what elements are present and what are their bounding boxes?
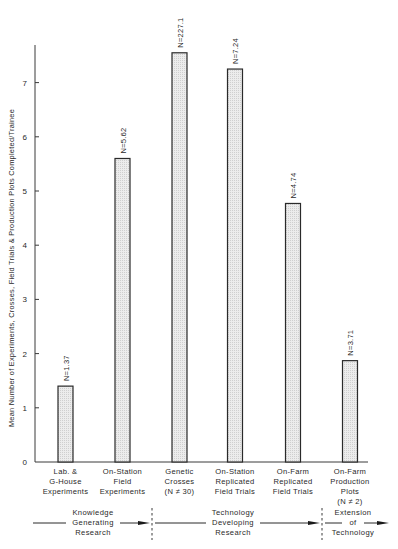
- x-tick-label: Field Trials: [215, 487, 255, 496]
- y-tick-label: 4: [23, 241, 28, 250]
- x-tick-label: Experiments: [100, 487, 146, 496]
- y-tick-label: 6: [23, 133, 28, 142]
- phase-label: of: [349, 518, 357, 527]
- phase-label: Research: [75, 528, 111, 537]
- bar: [286, 203, 301, 462]
- arrowhead-icon: [138, 521, 150, 525]
- x-tick-label: Plots: [341, 487, 359, 496]
- bar-data-label: N=227.1: [176, 17, 185, 47]
- bar-data-label: N=7.24: [231, 38, 240, 64]
- x-tick-label: On-Station: [103, 467, 142, 476]
- y-tick-label: 7: [23, 79, 28, 88]
- arrowhead-icon: [377, 521, 389, 525]
- bar-data-label: N=4.74: [289, 173, 298, 199]
- y-axis-label: Mean Number of Experiments, Crosses, Fie…: [7, 109, 16, 427]
- bar-labels: N=1.37N=5.62N=227.1N=7.24N=4.74N=3.71: [62, 17, 356, 381]
- y-tick-label: 3: [23, 295, 28, 304]
- y-tick-label: 2: [23, 350, 28, 359]
- phase-label: Technology: [212, 508, 254, 517]
- phase-label: Knowledge: [72, 508, 113, 517]
- phase-label: Generating: [72, 518, 114, 527]
- y-tick-label: 0: [23, 458, 28, 467]
- category-labels: Lab. &G-HouseExperimentsOn-StationFieldE…: [43, 467, 370, 506]
- x-tick-label: Replicated: [274, 477, 313, 486]
- x-tick-label: Production: [330, 477, 369, 486]
- y-tick-label: 5: [23, 187, 28, 196]
- x-tick-label: (N ≠ 2): [337, 497, 362, 506]
- x-tick-label: On-Station: [215, 467, 254, 476]
- x-tick-label: Field: [114, 477, 132, 486]
- bar: [343, 361, 358, 462]
- x-tick-label: Genetic: [165, 467, 193, 476]
- x-tick-label: On-Farm: [277, 467, 309, 476]
- bar: [228, 69, 243, 462]
- bar-data-label: N=3.71: [346, 330, 355, 356]
- x-tick-label: Field Trials: [273, 487, 313, 496]
- phase-label: Extension: [335, 508, 372, 517]
- bar-data-label: N=1.37: [62, 355, 71, 381]
- bar: [172, 53, 187, 462]
- phase-label: Technology: [332, 528, 374, 537]
- x-tick-label: G-House: [49, 477, 82, 486]
- x-tick-label: Crosses: [165, 477, 195, 486]
- research-phases: KnowledgeGeneratingResearchTechnologyDev…: [33, 508, 389, 540]
- y-tick-label: 1: [23, 404, 28, 413]
- bar: [115, 158, 130, 462]
- bars: [58, 53, 358, 462]
- y-axis: 01234567: [23, 45, 39, 467]
- bar-data-label: N=5.62: [119, 128, 128, 154]
- bar-chart: 01234567 N=1.37N=5.62N=227.1N=7.24N=4.74…: [0, 0, 398, 549]
- x-tick-label: (N ≠ 30): [165, 487, 195, 496]
- phase-label: Research: [215, 528, 251, 537]
- x-tick-label: On-Farm: [334, 467, 366, 476]
- phase-label: Developing: [212, 518, 254, 527]
- x-tick-label: Experiments: [43, 487, 89, 496]
- x-tick-label: Replicated: [216, 477, 255, 486]
- bar: [58, 386, 73, 462]
- arrowhead-icon: [308, 521, 320, 525]
- x-tick-label: Lab. &: [54, 467, 78, 476]
